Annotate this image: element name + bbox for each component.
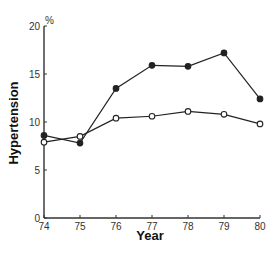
data-point — [41, 133, 47, 139]
data-point — [257, 96, 263, 102]
data-point — [149, 113, 155, 119]
axes: 0510152074757677787980 — [29, 21, 266, 232]
data-point — [149, 63, 155, 69]
data-point — [113, 86, 119, 92]
y-tick-label: 20 — [29, 21, 41, 32]
x-tick-label: 74 — [38, 221, 50, 232]
data-point — [77, 140, 83, 146]
y-tick-label: 5 — [34, 165, 40, 176]
y-tick-label: 10 — [29, 117, 41, 128]
data-point — [185, 109, 191, 115]
series-open-circles — [41, 109, 263, 145]
data-point — [113, 115, 119, 121]
x-tick-label: 80 — [254, 221, 266, 232]
data-point — [41, 139, 47, 145]
series-filled-circles — [41, 50, 263, 146]
series-group — [41, 50, 263, 146]
data-point — [221, 50, 227, 56]
data-point — [257, 121, 263, 127]
y-tick-label: 15 — [29, 69, 41, 80]
x-tick-label: 76 — [110, 221, 122, 232]
data-point — [77, 134, 83, 140]
x-tick-label: 79 — [218, 221, 230, 232]
data-point — [185, 64, 191, 70]
x-axis-title: Year — [136, 228, 163, 243]
data-point — [221, 112, 227, 118]
y-unit-label: % — [45, 15, 54, 26]
y-axis-title: Hypertension — [6, 81, 21, 164]
x-tick-label: 78 — [182, 221, 194, 232]
x-tick-label: 75 — [74, 221, 86, 232]
line-chart: 0510152074757677787980 Year Hypertension… — [0, 0, 278, 258]
